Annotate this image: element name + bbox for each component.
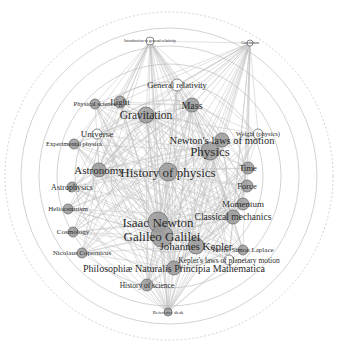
node-label-force: Force bbox=[237, 181, 257, 191]
node-label-principia: Philosophiæ Naturalis Principia Mathemat… bbox=[83, 263, 265, 274]
node-label-hist_sci: History of science bbox=[120, 281, 175, 290]
node-label-laplace: Pierre-Simon Laplace bbox=[212, 246, 273, 254]
node-label-time: Time bbox=[239, 163, 257, 173]
node-label-top_right: Gravitation bbox=[241, 40, 259, 45]
node-label-universe: Universe bbox=[81, 129, 114, 139]
node-label-class_mech: Classical mechanics bbox=[195, 212, 272, 222]
edge bbox=[95, 43, 250, 104]
node-label-light: Light bbox=[110, 97, 130, 107]
node-label-intro_gr: Introduction to general relativity bbox=[124, 38, 176, 43]
node-label-mass: Mass bbox=[181, 100, 202, 111]
node-label-bottom: Reference desk bbox=[153, 310, 184, 315]
node-label-exp_phys: Experimental physics bbox=[46, 140, 103, 147]
network-diagram: Introduction to general relativityGravit… bbox=[0, 0, 338, 353]
node-label-gravitation: Gravitation bbox=[120, 109, 173, 121]
node-label-momentum: Momentum bbox=[222, 199, 264, 209]
node-label-helio: Heliocentrism bbox=[48, 205, 88, 213]
node-label-gr: General relativity bbox=[147, 80, 207, 90]
node-label-hist_phys: History of physics bbox=[120, 165, 215, 180]
node-label-copernicus: Nicolaus Copernicus bbox=[53, 249, 112, 257]
node-label-astrophys: Astrophysics bbox=[51, 183, 93, 192]
node-label-newton: Isaac Newton bbox=[122, 215, 194, 230]
node-label-physics: Physics bbox=[190, 144, 230, 159]
node-label-astronomy: Astronomy bbox=[74, 164, 124, 176]
node-label-cosmology: Cosmology bbox=[57, 228, 90, 236]
